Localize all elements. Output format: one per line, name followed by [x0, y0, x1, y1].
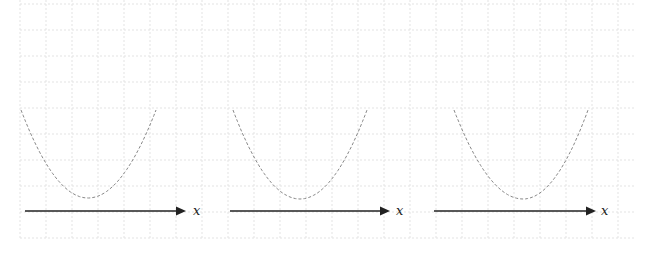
arrowhead-icon — [586, 207, 596, 216]
grid — [20, 0, 635, 238]
panel-2: x — [230, 110, 404, 218]
x-axis-label: x — [193, 203, 201, 218]
arrowhead-icon — [176, 207, 186, 216]
panels: xxx — [21, 110, 609, 218]
x-axis-label: x — [396, 203, 404, 218]
diagram-canvas: xxx — [0, 0, 647, 256]
arrowhead-icon — [380, 207, 390, 216]
x-axis-label: x — [601, 203, 609, 218]
parabola-curve — [21, 110, 156, 198]
panel-3: x — [434, 110, 609, 218]
panel-1: x — [21, 110, 201, 218]
